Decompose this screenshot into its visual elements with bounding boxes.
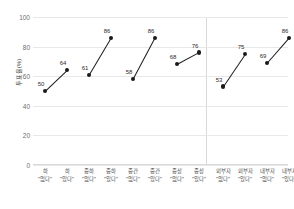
y-tick-label: 20: [4, 132, 30, 139]
gridline: [33, 47, 288, 48]
data-line-segment: [223, 54, 246, 87]
data-point-label: 86: [104, 28, 111, 34]
data-point[interactable]: [265, 61, 269, 65]
data-point[interactable]: [175, 62, 179, 66]
data-line-segment: [177, 53, 200, 66]
gridline: [33, 106, 288, 107]
data-point[interactable]: [221, 84, 225, 88]
y-tick-label: 80: [4, 43, 30, 50]
data-point[interactable]: [131, 77, 135, 81]
data-point-label: 68: [170, 54, 177, 60]
data-point-label: 58: [126, 69, 133, 75]
data-point[interactable]: [197, 50, 201, 54]
panel-separator: [206, 17, 207, 165]
data-line-segment: [89, 38, 112, 76]
data-point[interactable]: [109, 36, 113, 40]
data-line-segment: [45, 70, 68, 92]
data-point[interactable]: [43, 89, 47, 93]
y-tick-label: 100: [4, 14, 30, 21]
x-tick-line2: "있다": [272, 176, 294, 184]
data-point[interactable]: [87, 73, 91, 77]
data-point-label: 53: [216, 77, 223, 83]
data-point[interactable]: [65, 68, 69, 72]
data-point-label: 61: [82, 65, 89, 71]
y-tick-label: 0: [4, 162, 30, 169]
data-point[interactable]: [287, 36, 291, 40]
data-point[interactable]: [153, 36, 157, 40]
data-point[interactable]: [243, 52, 247, 56]
gridline: [33, 76, 288, 77]
y-tick-label: 60: [4, 73, 30, 80]
data-point-label: 76: [192, 43, 199, 49]
gridline: [33, 165, 288, 166]
x-tick-label: 내부자"있다": [272, 168, 294, 183]
data-point-label: 50: [38, 81, 45, 87]
data-point-label: 75: [238, 44, 245, 50]
x-axis-ticks: 하"없다"하"있다"중하"없다"중하"있다"중간"없다"중간"있다"중상"없다"…: [33, 168, 288, 206]
chart-container: 투표율(%) 020406080100 50646186588668765375…: [0, 0, 294, 209]
y-tick-label: 40: [4, 102, 30, 109]
x-tick-line1: 내부자: [272, 168, 294, 176]
data-line-segment: [267, 38, 290, 64]
data-point-label: 86: [148, 28, 155, 34]
y-axis-ticks: 020406080100: [2, 0, 30, 209]
gridline: [33, 135, 288, 136]
plot-area: 506461865886687653756986: [33, 17, 288, 165]
data-point-label: 64: [60, 60, 67, 66]
data-point-label: 69: [260, 53, 267, 59]
data-line-segment: [133, 38, 156, 80]
gridline: [33, 17, 288, 18]
data-point-label: 86: [282, 28, 289, 34]
